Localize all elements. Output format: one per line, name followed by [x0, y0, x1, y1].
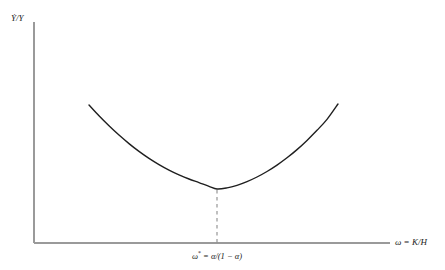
growth-rate-curve	[89, 104, 338, 189]
x-axis-label: ω = K/H	[395, 238, 427, 247]
x-tick-label-omega-star: ω* = α/(1 − α)	[192, 250, 242, 260]
y-axis-label-text: Ẏ/Y	[11, 13, 24, 23]
x-axis-label-fraction: K/H	[412, 237, 427, 247]
plot-canvas	[0, 0, 445, 270]
x-axis-label-prefix: ω =	[395, 237, 412, 247]
chart-figure: Ẏ/Y ω = K/H ω* = α/(1 − α)	[0, 0, 445, 270]
y-axis-label: Ẏ/Y	[11, 14, 24, 23]
x-tick-equation-text: = α/(1 − α)	[201, 251, 242, 261]
